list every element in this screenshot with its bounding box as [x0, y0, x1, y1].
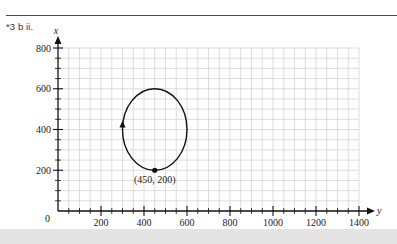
equilibrium-point-marker — [152, 168, 157, 173]
vertical-axis-name: x — [53, 25, 59, 36]
x-tick-label: 800 — [223, 217, 238, 228]
y-tick-label: 200 — [36, 165, 51, 176]
y-tick-label: 600 — [36, 83, 51, 94]
y-tick-label: 400 — [36, 124, 51, 135]
bottom-band — [0, 229, 397, 244]
x-tick-label: 1000 — [263, 217, 283, 228]
x-tick-label: 400 — [137, 217, 152, 228]
x-tick-label: 200 — [94, 217, 109, 228]
ticks: 200400600800100012001400200400600800 — [36, 43, 369, 229]
grid — [58, 48, 359, 211]
direction-arrow-icon — [120, 120, 126, 127]
y-tick-label: 800 — [36, 43, 51, 54]
horizontal-axis-arrow-icon — [367, 208, 375, 215]
x-tick-label: 600 — [180, 217, 195, 228]
x-tick-label: 1400 — [349, 217, 369, 228]
origin-label: 0 — [45, 213, 50, 224]
vertical-axis-arrow-icon — [55, 36, 62, 44]
horizontal-axis-name: y — [376, 205, 382, 216]
labels: y x 0 (450, 200) — [45, 25, 382, 224]
x-tick-label: 1200 — [306, 217, 326, 228]
point-annotation: (450, 200) — [134, 174, 176, 186]
phase-plot: 200400600800100012001400200400600800 y x… — [0, 0, 397, 244]
